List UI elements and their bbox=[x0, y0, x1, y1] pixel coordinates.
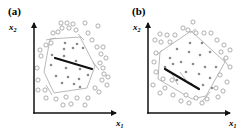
filled-point bbox=[188, 51, 191, 54]
filled-point bbox=[185, 71, 188, 74]
panel-b: (b) x2 x1 bbox=[132, 5, 237, 129]
filled-point bbox=[63, 55, 66, 58]
open-circle-point bbox=[56, 30, 60, 34]
open-circle-point bbox=[200, 101, 204, 105]
panel-label: (a) bbox=[8, 5, 21, 18]
open-circle-point bbox=[221, 89, 225, 93]
open-circle-point bbox=[216, 95, 220, 99]
open-circle-point bbox=[93, 86, 97, 90]
figure-canvas: (a) x2 x1 (b) x2 x1 bbox=[0, 0, 244, 135]
open-circle-point bbox=[86, 31, 90, 35]
open-circle-point bbox=[39, 54, 43, 58]
open-circle-point bbox=[75, 96, 79, 100]
open-circle-point bbox=[225, 80, 229, 84]
filled-point bbox=[199, 54, 202, 57]
open-circle-point bbox=[205, 97, 209, 101]
filled-points bbox=[50, 42, 90, 89]
open-circle-point bbox=[95, 45, 99, 49]
filled-point bbox=[76, 43, 79, 46]
open-circle-point bbox=[219, 50, 223, 54]
open-circle-point bbox=[96, 24, 100, 28]
panel-label: (b) bbox=[132, 5, 146, 18]
open-circle-point bbox=[187, 101, 191, 105]
filled-point bbox=[180, 61, 183, 64]
open-circle-point bbox=[158, 32, 162, 36]
open-circle-point bbox=[43, 88, 47, 92]
filled-point bbox=[189, 42, 192, 45]
filled-point bbox=[51, 54, 54, 57]
open-circle-point bbox=[215, 38, 219, 42]
open-circle-point bbox=[224, 56, 228, 60]
filled-point bbox=[61, 82, 64, 85]
filled-point bbox=[169, 57, 172, 60]
open-circle-point bbox=[161, 77, 165, 81]
x-axis-label: x1 bbox=[228, 118, 237, 129]
open-circle-point bbox=[179, 99, 183, 103]
open-circle-point bbox=[181, 26, 185, 30]
filled-point bbox=[63, 48, 66, 51]
open-circle-point bbox=[74, 28, 78, 32]
open-circle-point bbox=[228, 48, 232, 52]
open-circle-point bbox=[67, 26, 71, 30]
panel-a: (a) x2 x1 bbox=[8, 5, 124, 129]
filled-point bbox=[67, 76, 70, 79]
open-circle-point bbox=[165, 33, 169, 37]
open-circle-point bbox=[38, 48, 42, 52]
open-circle-point bbox=[218, 73, 222, 77]
filled-point bbox=[87, 74, 90, 77]
open-circle-point bbox=[36, 78, 40, 82]
open-circle-point bbox=[49, 41, 53, 45]
filled-point bbox=[65, 67, 68, 70]
filled-point bbox=[192, 63, 195, 66]
open-circle-point bbox=[194, 96, 198, 100]
open-circle-point bbox=[228, 65, 232, 69]
open-circle-point bbox=[152, 60, 156, 64]
open-circle-point bbox=[60, 26, 64, 30]
open-circle-point bbox=[83, 103, 87, 107]
open-circle-point bbox=[202, 31, 206, 35]
y-axis-label: x2 bbox=[8, 22, 17, 33]
open-circle-point bbox=[184, 93, 188, 97]
open-circle-point bbox=[209, 31, 213, 35]
y-axis-label: x2 bbox=[132, 22, 141, 33]
open-circle-point bbox=[101, 66, 105, 70]
open-circle-point bbox=[97, 90, 101, 94]
filled-point bbox=[198, 73, 201, 76]
open-circle-point bbox=[214, 86, 218, 90]
open-circle-point bbox=[98, 61, 102, 65]
open-circle-point bbox=[154, 51, 158, 55]
filled-point bbox=[64, 42, 67, 45]
open-circle-point bbox=[222, 43, 226, 47]
open-circle-point bbox=[153, 38, 157, 42]
filled-point bbox=[78, 78, 81, 81]
open-circle-point bbox=[186, 28, 190, 32]
open-circle-point bbox=[194, 31, 198, 35]
open-points bbox=[151, 20, 232, 105]
open-circle-point bbox=[35, 66, 39, 70]
filled-point bbox=[204, 66, 207, 69]
open-circle-point bbox=[65, 21, 69, 25]
filled-point bbox=[202, 84, 205, 87]
filled-point bbox=[209, 77, 212, 80]
open-circle-point bbox=[171, 93, 175, 97]
filled-point bbox=[75, 60, 78, 63]
open-circle-point bbox=[54, 97, 58, 101]
open-circle-point bbox=[90, 38, 94, 42]
x-axis-label: x1 bbox=[115, 118, 124, 129]
open-circle-point bbox=[173, 33, 177, 37]
open-circle-point bbox=[83, 21, 87, 25]
open-circle-point bbox=[154, 70, 158, 74]
open-circle-point bbox=[99, 52, 103, 56]
open-circle-point bbox=[159, 40, 163, 44]
filled-point bbox=[79, 68, 82, 71]
filled-point bbox=[209, 51, 212, 54]
open-circle-point bbox=[51, 31, 55, 35]
filled-point bbox=[72, 47, 75, 50]
open-circle-point bbox=[44, 43, 48, 47]
open-circle-point bbox=[158, 91, 162, 95]
open-circle-point bbox=[106, 75, 110, 79]
filled-point bbox=[176, 48, 179, 51]
open-circle-point bbox=[86, 96, 90, 100]
open-circle-point bbox=[64, 95, 68, 99]
thick-direction-line bbox=[55, 58, 92, 69]
